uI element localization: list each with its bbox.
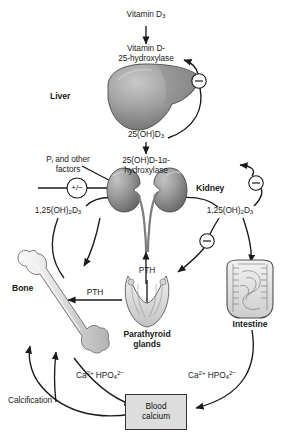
- arrow-calcitriol-to-parathyroid: [178, 248, 204, 272]
- label-1alpha-hydroxylase-line2: hydroxylase: [124, 166, 168, 176]
- arrow-1a-inhibition-head: [240, 165, 254, 176]
- label-parathyroid-line2: glands: [133, 340, 160, 350]
- label-ca-hpo4-right: Ca2+ HPO42−: [188, 368, 236, 381]
- label-bone: Bone: [12, 284, 33, 294]
- label-calcitriol-left: 1,25(OH)2D3: [35, 206, 82, 217]
- curve-left-calcitriol-to-bone: [52, 218, 64, 278]
- label-ca-hpo4-left: Ca2+ HPO42−: [76, 368, 124, 381]
- label-pth-horizontal: PTH: [87, 288, 103, 298]
- label-liver: Liver: [50, 92, 70, 102]
- label-pth-vertical: PTH: [139, 266, 155, 276]
- label-calcitriol-right: 1,25(OH)2D3: [207, 206, 254, 217]
- blood-calcium-line2: calcium: [142, 412, 170, 422]
- liver-organ: [108, 64, 198, 130]
- bone-organ: [18, 250, 109, 353]
- label-calcification: Calcification: [8, 396, 52, 406]
- arrow-calcification-to-bone: [55, 352, 57, 402]
- intestine-organ: [227, 260, 273, 318]
- kidney-organs: [107, 168, 187, 252]
- pathway-diagram: [0, 0, 287, 440]
- label-pi-factors-line2: factors: [56, 165, 81, 175]
- label-vitamin-d-25-hydroxylase-line2: 25-hydroxylase: [118, 54, 174, 64]
- label-kidney: Kidney: [196, 184, 224, 194]
- label-intestine: Intestine: [233, 320, 268, 330]
- label-vitamin-d3: Vitamin D3: [127, 10, 166, 21]
- arrow-calcitriol-to-intestine: [243, 218, 251, 262]
- curve-to-parathyroid-upper: [210, 218, 219, 234]
- arrow-bone-to-blood: [74, 358, 132, 405]
- label-25ohd3: 25(OH)D3: [128, 130, 164, 141]
- blood-calcium-box: Blood calcium: [125, 394, 187, 430]
- arrow-calcitriol-to-bone-head: [84, 218, 100, 266]
- label-plus-minus: +/−: [71, 183, 82, 193]
